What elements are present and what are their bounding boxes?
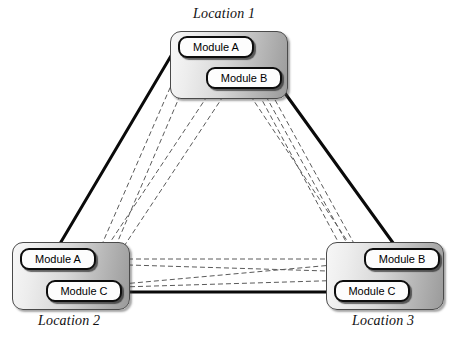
module-box-l1-module-a[interactable]: Module A	[178, 36, 254, 58]
module-label-l1-module-b: Module B	[221, 72, 267, 84]
module-box-l3-module-c[interactable]: Module C	[334, 280, 410, 302]
module-box-l2-module-a[interactable]: Module A	[20, 248, 96, 270]
site-label-location-1: Location 1	[193, 6, 255, 22]
module-label-l1-module-a: Module A	[193, 41, 239, 53]
site-label-location-2: Location 2	[38, 313, 100, 329]
link-l1a-l2a[interactable]	[58, 44, 178, 247]
module-box-l1-module-b[interactable]: Module B	[206, 67, 282, 89]
module-box-l2-module-c[interactable]: Module C	[46, 280, 122, 302]
module-label-l3-module-b: Module B	[379, 253, 425, 265]
dash-l2a-l3c[interactable]	[96, 264, 360, 272]
network-diagram: Location 1Module AModule BLocation 2Modu…	[0, 0, 454, 339]
link-l1b-l3b[interactable]	[282, 89, 396, 247]
module-label-l3-module-c: Module C	[348, 285, 395, 297]
module-label-l2-module-a: Module A	[35, 253, 81, 265]
site-label-location-3: Location 3	[352, 313, 414, 329]
module-box-l3-module-b[interactable]: Module B	[364, 248, 440, 270]
module-label-l2-module-c: Module C	[60, 285, 107, 297]
dash-l1b-l2a[interactable]	[97, 89, 212, 262]
